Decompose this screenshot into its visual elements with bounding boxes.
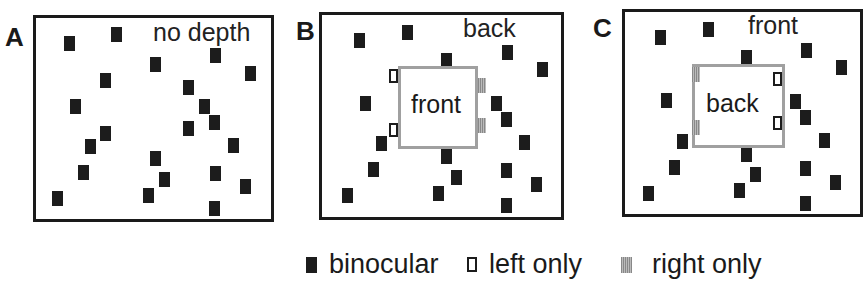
stimulus-dot [692,67,700,82]
stimulus-dot [703,22,714,37]
binocular-swatch-icon [306,257,317,273]
stimulus-dot [836,60,847,75]
stimulus-dot [389,69,398,83]
panel-c-label: C [593,15,612,41]
panel-b-inner-label: front [411,92,461,117]
stimulus-dot [773,72,782,86]
stimulus-dot [491,96,502,111]
stimulus-dot [750,167,761,182]
stimulus-dot [478,118,486,133]
stimulus-dot [501,112,512,127]
stimulus-dot [741,50,752,65]
stimulus-dot [111,27,122,42]
stimulus-dot [360,96,371,111]
legend-binocular: binocular [306,251,439,278]
stimulus-dot [478,78,486,93]
panel-c-inner-label: back [706,91,759,116]
stimulus-dot [692,120,700,135]
stimulus-dot [100,73,111,88]
stimulus-dot [159,172,170,187]
stimulus-dot [830,175,841,190]
stimulus-dot [531,177,542,192]
stimulus-dot [368,162,379,177]
stimulus-dot [801,43,812,58]
stimulus-dot [800,110,811,125]
stimulus-dot [210,48,221,63]
legend-right-only: right only [621,251,762,278]
stimulus-dot [85,139,96,154]
left-only-swatch-icon [467,257,477,272]
stimulus-dot [734,183,745,198]
legend-left-only: left only [467,251,582,278]
stimulus-dot [376,136,387,151]
stimulus-dot [501,198,512,213]
stimulus-dot [354,33,365,48]
stimulus-dot [800,196,811,211]
panel-a-label: A [5,24,24,50]
stimulus-dot [245,66,256,81]
panel-a-title: no depth [153,20,250,45]
stimulus-dot [78,165,89,180]
stimulus-dot [501,163,512,178]
stimulus-dot [183,121,194,136]
panel-b-label: B [296,18,315,44]
stimulus-dot [677,134,688,149]
legend-right-only-label: right only [652,251,762,278]
stimulus-dot [655,30,666,45]
legend-binocular-label: binocular [329,251,439,278]
stimulus-dot [143,188,154,203]
panel-b-title: back [463,16,516,41]
stimulus-dot [433,186,444,201]
right-only-swatch-icon [621,257,632,273]
stimulus-dot [741,147,752,162]
stimulus-dot [389,123,398,137]
stimulus-dot [451,170,462,185]
stimulus-dot [209,201,220,216]
stimulus-dot [199,99,210,114]
stimulus-dot [519,135,530,150]
stimulus-dot [183,80,194,95]
stimulus-dot [402,25,413,40]
stimulus-dot [150,57,161,72]
stimulus-dot [643,186,654,201]
stimulus-dot [537,62,548,77]
stimulus-dot [342,188,353,203]
stimulus-dot [70,99,81,114]
stimulus-dot [502,45,513,60]
stimulus-dot [100,126,111,141]
stimulus-dot [64,36,75,51]
stimulus-dot [661,93,672,108]
stimulus-dot [773,116,782,130]
stimulus-dot [240,179,251,194]
stimulus-dot [209,115,220,130]
stimulus-dot [669,160,680,175]
stimulus-dot [228,138,239,153]
stimulus-dot [441,149,452,164]
stimulus-dot [210,166,221,181]
stimulus-dot [800,161,811,176]
stimulus-dot [150,151,161,166]
stimulus-dot [52,191,63,206]
stimulus-dot [790,94,801,109]
legend-left-only-label: left only [489,251,582,278]
panel-c-title: front [748,13,798,38]
stimulus-dot [819,133,830,148]
